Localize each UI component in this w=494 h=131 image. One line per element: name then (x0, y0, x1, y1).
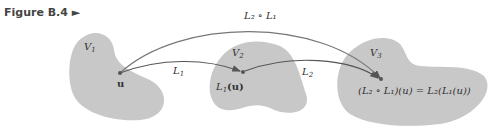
result-equation: (L₂ ∘ L₁)(u) = L₂(L₁(u)) (358, 85, 471, 96)
point-l1u (241, 70, 245, 74)
set-v2-region (210, 41, 307, 112)
arrow-composite-label: L₂ ∘ L₁ (243, 10, 277, 21)
arrow-l2-label: L2 (301, 66, 314, 79)
arrow-l1-label: L1 (172, 65, 184, 78)
composition-diagram: V1 V2 V3 u L1(u) L1 L2 L₂ ∘ L₁ (L₂ ∘ L₁)… (0, 0, 494, 131)
point-result (379, 77, 383, 81)
point-u-label: u (117, 78, 124, 89)
set-v3-region (337, 38, 487, 126)
point-u (118, 71, 122, 75)
